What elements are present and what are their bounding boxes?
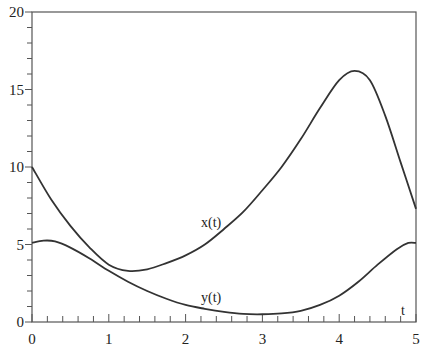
x-tick-label: 1 xyxy=(105,331,113,347)
axis-ticks xyxy=(25,12,416,322)
y-tick-label: 5 xyxy=(17,237,25,253)
x-tick-label: 4 xyxy=(335,331,343,347)
line-chart: 01234505101520 x(t) y(t) t xyxy=(0,0,427,360)
x-tick-label: 0 xyxy=(28,331,36,347)
plot-frame xyxy=(32,12,416,322)
x-tick-label: 3 xyxy=(259,331,267,347)
y-tick-label: 10 xyxy=(9,159,24,175)
y-curve-line xyxy=(32,240,416,314)
y-tick-label: 15 xyxy=(9,82,24,98)
x-curve-line xyxy=(32,71,416,271)
series-group xyxy=(32,71,416,314)
y-tick-label: 0 xyxy=(17,314,25,330)
y-tick-label: 20 xyxy=(9,4,24,20)
x-curve-label: x(t) xyxy=(201,215,222,231)
y-curve-label: y(t) xyxy=(201,290,222,306)
x-tick-label: 5 xyxy=(412,331,420,347)
x-tick-label: 2 xyxy=(182,331,190,347)
x-axis-label: t xyxy=(401,303,405,318)
